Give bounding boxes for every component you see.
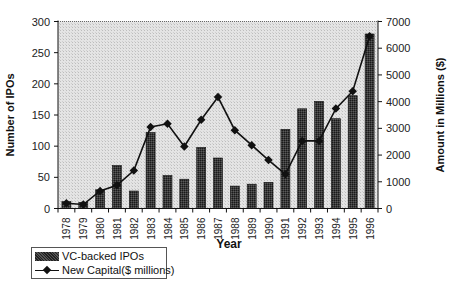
x-axis-title: Year <box>216 237 242 251</box>
x-tick-label: 1990 <box>264 217 275 240</box>
right-axis-tick-labels: 01000200030004000500060007000 <box>386 16 410 215</box>
bar-1995 <box>348 96 357 209</box>
legend-item-vc-backed-ipos: VC-backed IPOs <box>35 249 144 263</box>
left-tick-label: 50 <box>38 171 50 183</box>
x-tick-label: 1993 <box>314 217 325 240</box>
bar-1992 <box>298 109 307 209</box>
x-tick-label: 1996 <box>365 217 376 240</box>
x-tick-label: 1991 <box>280 217 291 240</box>
x-tick-label: 1979 <box>78 217 89 240</box>
x-tick-label: 1986 <box>196 217 207 240</box>
left-axis-tick-labels: 050100150200250300 <box>32 16 50 215</box>
x-tick-label: 1994 <box>331 217 342 240</box>
bar-1993 <box>315 101 324 208</box>
x-tick-label: 1995 <box>348 217 359 240</box>
right-tick-label: 3000 <box>386 122 410 134</box>
legend: VC-backed IPOs New Capital($ millions) <box>31 247 167 279</box>
x-tick-label: 1981 <box>112 217 123 240</box>
bar-1983 <box>146 133 155 209</box>
x-tick-label: 1992 <box>297 217 308 240</box>
x-tick-label: 1982 <box>129 217 140 240</box>
right-tick-label: 2000 <box>386 149 410 161</box>
right-tick-label: 0 <box>386 203 392 215</box>
bar-1996 <box>365 34 374 209</box>
left-tick-label: 100 <box>32 140 50 152</box>
bar-1994 <box>331 119 340 209</box>
x-tick-label: 1989 <box>247 217 258 240</box>
left-axis-title: Number of IPOs <box>4 73 16 156</box>
right-tick-label: 4000 <box>386 96 410 108</box>
right-tick-label: 5000 <box>386 69 410 81</box>
legend-label: VC-backed IPOs <box>62 250 144 262</box>
left-tick-label: 300 <box>32 16 50 28</box>
x-tick-label: 1980 <box>95 217 106 240</box>
x-tick-label: 1985 <box>179 217 190 240</box>
bar-1988 <box>230 186 239 208</box>
bar-1990 <box>264 182 273 208</box>
bar-1982 <box>129 191 138 209</box>
bar-1987 <box>214 158 223 209</box>
x-tick-label: 1984 <box>163 217 174 240</box>
right-tick-label: 1000 <box>386 176 410 188</box>
left-tick-label: 0 <box>44 203 50 215</box>
left-tick-label: 150 <box>32 109 50 121</box>
line-marker-icon <box>35 266 59 275</box>
bar-1985 <box>180 179 189 208</box>
legend-label: New Capital($ millions) <box>62 264 174 276</box>
x-tick-label: 1978 <box>61 217 72 240</box>
right-tick-label: 6000 <box>386 42 410 54</box>
right-tick-label: 7000 <box>386 16 410 28</box>
legend-item-new-capital: New Capital($ millions) <box>35 263 174 277</box>
bar-1989 <box>247 184 256 208</box>
left-tick-label: 250 <box>32 47 50 59</box>
bar-1984 <box>163 176 172 209</box>
right-axis-title: Amount in Millions ($) <box>434 57 446 172</box>
bar-1986 <box>197 147 206 208</box>
x-tick-label: 1983 <box>146 217 157 240</box>
left-tick-label: 200 <box>32 78 50 90</box>
bar-swatch-icon <box>35 252 59 261</box>
